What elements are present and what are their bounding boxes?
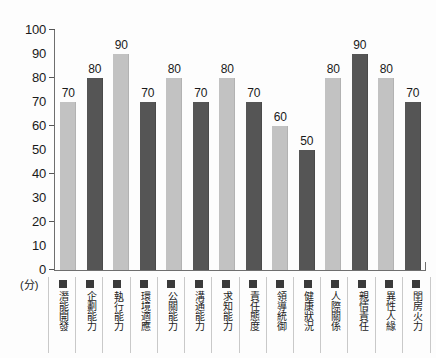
bar-value-label: 90: [353, 39, 366, 51]
legend-cell-14[interactable]: 閨房火力: [402, 277, 431, 353]
legend-swatch-icon: [167, 280, 175, 288]
bar: [352, 54, 368, 270]
legend-swatch-icon: [276, 280, 284, 288]
legend-swatch-icon: [113, 280, 121, 288]
y-tick-label: 90: [32, 47, 46, 61]
bar-value-label: 80: [88, 63, 101, 75]
legend-cell-10[interactable]: 健康狀況: [293, 277, 321, 353]
y-tick-80: 80: [0, 71, 56, 85]
category-label: 異性人緣: [384, 291, 395, 331]
legend-cell-8[interactable]: 責任態度: [239, 277, 267, 353]
bar-group: 50: [294, 30, 321, 270]
bar-group: 60: [267, 30, 294, 270]
legend-cell-6[interactable]: 溝通能力: [184, 277, 212, 353]
y-tick-label: 50: [32, 143, 46, 157]
bar-value-label: 80: [380, 63, 393, 75]
y-tick-70: 70: [0, 95, 56, 109]
category-legend-strip: 潛能開發企劃能力執行能力環境適應公關能力溝通能力求知能力責任態度領導統御健康狀況…: [48, 277, 429, 355]
category-label: 環境適應: [139, 291, 150, 331]
category-label: 閨房火力: [411, 291, 422, 331]
bar: [325, 78, 341, 270]
bar-group: 70: [135, 30, 162, 270]
category-label: 執行能力: [112, 291, 123, 331]
legend-swatch-icon: [304, 280, 312, 288]
bar-value-label: 90: [115, 39, 128, 51]
legend-cell-5[interactable]: 公關能力: [157, 277, 185, 353]
bar-value-label: 70: [141, 87, 154, 99]
bar-value-label: 80: [221, 63, 234, 75]
legend-cell-2[interactable]: 企劃能力: [75, 277, 103, 353]
bar-value-label: 60: [274, 111, 287, 123]
y-tick-0: 0: [0, 263, 56, 277]
legend-cell-4[interactable]: 環境適應: [130, 277, 158, 353]
legend-cell-12[interactable]: 親情責任: [347, 277, 375, 353]
legend-cell-3[interactable]: 執行能力: [102, 277, 130, 353]
legend-swatch-icon: [59, 280, 67, 288]
bar-value-label: 50: [300, 135, 313, 147]
bar: [219, 78, 235, 270]
legend-cell-9[interactable]: 領導統御: [266, 277, 294, 353]
bar-group: 70: [55, 30, 82, 270]
bar: [140, 102, 156, 270]
bar: [60, 102, 76, 270]
bar-group: 80: [214, 30, 241, 270]
legend-swatch-icon: [86, 280, 94, 288]
y-tick-label: 80: [32, 71, 46, 85]
category-label: 人際關係: [329, 291, 340, 331]
bar-value-label: 70: [194, 87, 207, 99]
bar-group: 80: [161, 30, 188, 270]
bar: [405, 102, 421, 270]
bar-group: 70: [400, 30, 427, 270]
y-axis: 1009080706050403020100: [0, 22, 56, 278]
y-tick-label: 60: [32, 119, 46, 133]
y-tick-20: 20: [0, 215, 56, 229]
legend-swatch-icon: [331, 280, 339, 288]
y-tick-label: 30: [32, 191, 46, 205]
y-tick-100: 100: [0, 23, 56, 37]
bar-group: 80: [82, 30, 109, 270]
category-label: 親情責任: [357, 291, 368, 331]
legend-swatch-icon: [140, 280, 148, 288]
bar-chart: 1009080706050403020100 (分) 7080907080708…: [0, 0, 436, 358]
bar-group: 90: [108, 30, 135, 270]
category-label: 潛能開發: [57, 291, 68, 331]
bar: [246, 102, 262, 270]
bar: [299, 150, 315, 270]
y-tick-40: 40: [0, 167, 56, 181]
y-tick-label: 40: [32, 167, 46, 181]
category-label: 責任態度: [248, 291, 259, 331]
bar: [87, 78, 103, 270]
bar-value-label: 70: [406, 87, 419, 99]
bar-group: 70: [241, 30, 268, 270]
bar: [272, 126, 288, 270]
legend-cell-13[interactable]: 異性人緣: [375, 277, 403, 353]
y-tick-90: 90: [0, 47, 56, 61]
legend-swatch-icon: [358, 280, 366, 288]
bar-value-label: 80: [327, 63, 340, 75]
legend-swatch-icon: [412, 280, 420, 288]
y-tick-10: 10: [0, 239, 56, 253]
y-tick-50: 50: [0, 143, 56, 157]
bar-value-label: 70: [62, 87, 75, 99]
category-label: 溝通能力: [193, 291, 204, 331]
category-label: 領導統御: [275, 291, 286, 331]
y-tick-label: 100: [25, 23, 46, 37]
bar: [113, 54, 129, 270]
bar-group: 80: [373, 30, 400, 270]
legend-swatch-icon: [249, 280, 257, 288]
y-tick-30: 30: [0, 191, 56, 205]
bar-value-label: 70: [247, 87, 260, 99]
category-label: 企劃能力: [85, 291, 96, 331]
y-tick-label: 0: [39, 263, 46, 277]
legend-cell-11[interactable]: 人際關係: [320, 277, 348, 353]
legend-cell-1[interactable]: 潛能開發: [48, 277, 76, 353]
plot-area: 7080907080708070605080908070: [55, 30, 426, 270]
bar: [166, 78, 182, 270]
bar-group: 90: [347, 30, 374, 270]
bar-value-label: 80: [168, 63, 181, 75]
legend-swatch-icon: [222, 280, 230, 288]
y-tick-label: 10: [32, 239, 46, 253]
legend-cell-7[interactable]: 求知能力: [211, 277, 239, 353]
category-label: 公關能力: [166, 291, 177, 331]
bar: [378, 78, 394, 270]
